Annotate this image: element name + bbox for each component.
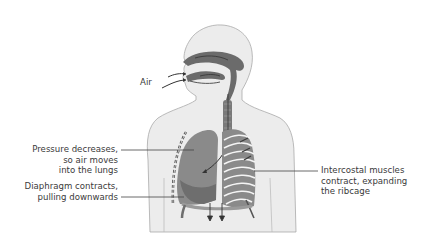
respiratory-diagram [0, 0, 427, 245]
pressure-line-2: so air moves [16, 155, 118, 166]
pressure-label: Pressure decreases, so air moves into th… [16, 144, 118, 176]
pressure-line-1: Pressure decreases, [16, 144, 118, 155]
air-label: Air [140, 77, 152, 88]
ribcage [222, 129, 255, 218]
diaphragm-line-2: pulling downwards [0, 192, 118, 203]
intercostal-line-3: the ribcage [321, 186, 407, 197]
diaphragm-line-1: Diaphragm contracts, [0, 181, 118, 192]
intercostal-label: Intercostal muscles contract, expanding … [321, 165, 407, 197]
air-label-text: Air [140, 77, 152, 88]
intercostal-line-2: contract, expanding [321, 176, 407, 187]
diaphragm-label: Diaphragm contracts, pulling downwards [0, 181, 118, 202]
intercostal-line-1: Intercostal muscles [321, 165, 407, 176]
pressure-line-3: into the lungs [16, 165, 118, 176]
